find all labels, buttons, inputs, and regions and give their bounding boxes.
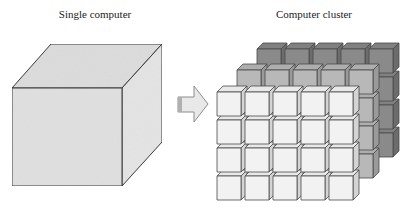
node-cube	[217, 142, 247, 172]
node-cube	[301, 142, 331, 172]
node-cube	[329, 114, 359, 144]
computer-cluster	[217, 43, 399, 200]
node-cube	[329, 142, 359, 172]
cluster-layer-front	[217, 86, 359, 200]
node-cube	[245, 86, 275, 116]
node-cube	[245, 114, 275, 144]
node-cube	[273, 114, 303, 144]
cube-front-face	[12, 88, 122, 186]
node-cube	[329, 86, 359, 116]
node-cube	[273, 86, 303, 116]
node-cube	[245, 142, 275, 172]
node-cube	[301, 170, 331, 200]
node-cube	[217, 170, 247, 200]
diagram-canvas	[0, 0, 412, 214]
node-cube	[217, 114, 247, 144]
arrow-right-icon	[178, 86, 208, 122]
node-cube	[301, 86, 331, 116]
node-cube	[273, 170, 303, 200]
node-cube	[217, 86, 247, 116]
node-cube	[329, 170, 359, 200]
node-cube	[245, 170, 275, 200]
single-computer-cube	[12, 44, 162, 186]
node-cube	[301, 114, 331, 144]
node-cube	[273, 142, 303, 172]
